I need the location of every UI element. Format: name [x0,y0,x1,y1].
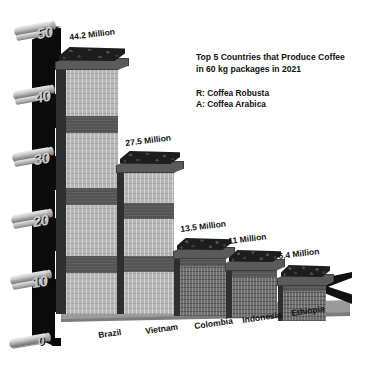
bar-brazil-beans [59,47,125,61]
bar-value-label-brazil: 44.2 Million [69,26,116,42]
bar-value-label-vietnam: 27.5 Million [125,132,172,148]
bar-indonesia-beans [229,250,281,262]
bar-value-label-colombia: 13.5 Million [180,218,227,234]
legend-item-robusta: R: Coffea Robusta [196,88,269,99]
bar-value-label-ethiopia: 6.4 Million [278,246,320,261]
chart-title: Top 5 Countries that Produce Coffee in 6… [196,52,356,75]
bar-brazil-band [66,188,118,205]
coffee-production-chart: 50 40 30 20 10 0 44.2 Million [0,0,365,375]
axis-notch [55,312,61,338]
bar-colombia-beans [177,238,231,250]
bar-vietnam[interactable] [124,163,174,314]
bar-vietnam-body [124,168,174,314]
legend-item-arabica: A: Coffea Arabica [196,99,269,110]
bar-indonesia[interactable] [232,262,277,318]
bar-vietnam-band [124,256,174,272]
bar-brazil-band [66,116,118,133]
bar-vietnam-band [124,203,174,219]
y-axis-post [32,30,54,346]
chart-legend: R: Coffea Robusta A: Coffea Arabica [196,88,269,109]
chart-title-line-2: in 60 kg packages in 2021 [196,64,356,76]
category-label-brazil: Brazil [98,327,122,340]
bar-brazil-band [66,256,118,273]
category-label-vietnam: Vietnam [145,322,179,336]
bar-value-label-indonesia: 11 Million [228,231,267,246]
chart-title-line-1: Top 5 Countries that Produce Coffee [196,52,356,64]
bar-vietnam-beans [120,151,180,164]
bar-brazil[interactable] [66,60,118,314]
bar-colombia[interactable] [180,250,226,316]
bar-ethiopia-beans [281,265,330,277]
